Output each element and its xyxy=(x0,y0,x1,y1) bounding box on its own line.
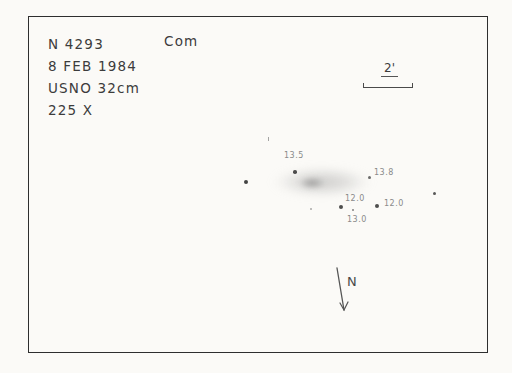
galaxy-core xyxy=(299,177,325,189)
north-label: N xyxy=(347,274,358,289)
magnification: 225 X xyxy=(48,99,140,121)
observation-header: N 4293 8 FEB 1984 USNO 32cm 225 X xyxy=(48,33,140,121)
constellation-label: Com xyxy=(164,33,198,49)
star-dot xyxy=(375,204,379,208)
magnitude-label: 12.0 xyxy=(384,199,404,208)
star-dot xyxy=(433,192,436,195)
object-designation: N 4293 xyxy=(48,33,140,55)
scale-bar-line xyxy=(363,83,413,88)
star-dot xyxy=(293,170,297,174)
telescope-info: USNO 32cm xyxy=(48,77,140,99)
observation-date: 8 FEB 1984 xyxy=(48,55,140,77)
star-dot xyxy=(310,208,312,210)
star-dot xyxy=(368,176,371,179)
scale-bar-label: 2' xyxy=(381,61,398,77)
star-dot xyxy=(339,205,343,209)
observation-sketch-page: N 4293 8 FEB 1984 USNO 32cm 225 X Com 2'… xyxy=(0,0,512,373)
magnitude-label: 13.8 xyxy=(374,168,394,177)
magnitude-label: 13.0 xyxy=(347,215,367,224)
magnitude-label: 13.5 xyxy=(284,151,304,160)
magnitude-label: 12.0 xyxy=(345,194,365,203)
star-tick-mark xyxy=(268,137,269,141)
